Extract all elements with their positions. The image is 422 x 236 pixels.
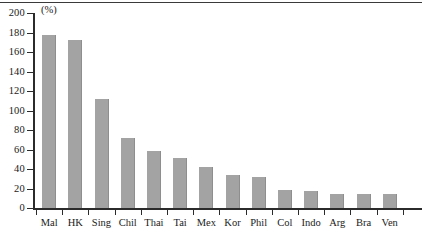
y-axis-tick [27,33,33,34]
figure-top-rule [0,2,422,3]
x-axis-tick [219,210,220,215]
x-axis-tick [298,210,299,215]
y-axis-tick-label-slot: 60 [0,150,25,151]
y-axis-tick-label: 20 [1,184,25,195]
y-axis-tick-label-slot: 180 [0,33,25,34]
y-axis-tick [27,52,33,53]
y-axis-tick [27,150,33,151]
y-axis-tick [27,169,33,170]
y-axis-tick-label: 40 [1,164,25,175]
bar [252,177,266,208]
bar [304,191,318,208]
x-axis-tick [350,210,351,215]
bar [95,99,109,208]
bar [68,40,82,208]
x-axis-tick-label: Indo [301,218,320,229]
x-axis-tick [115,210,116,215]
y-axis-tick-label-slot: 40 [0,169,25,170]
y-axis-tick-label: 200 [1,8,25,19]
x-axis-tick [377,210,378,215]
y-axis-tick-label-slot: 80 [0,130,25,131]
x-axis-tick-label: Ven [382,218,398,229]
y-axis-tick-label: 60 [1,145,25,156]
y-axis-tick [27,91,33,92]
bar [278,190,292,208]
bar [226,175,240,208]
x-axis-tick [246,210,247,215]
y-axis-tick [27,208,33,209]
x-axis-tick-label: Chil [119,218,137,229]
y-axis-tick [27,189,33,190]
x-axis-tick [272,210,273,215]
bar [357,194,371,208]
y-axis-tick-label-slot: 200 [0,13,25,14]
x-axis-tick-label: HK [68,218,83,229]
bar [330,194,344,208]
y-axis-tick-label-slot: 0 [0,208,25,209]
x-axis-tick [193,210,194,215]
y-axis-tick-label-slot: 160 [0,52,25,53]
x-axis-tick [141,210,142,215]
y-axis-tick [27,111,33,112]
y-axis-tick [27,72,33,73]
y-axis-tick-label: 100 [1,106,25,117]
x-axis-tick [324,210,325,215]
y-axis-tick-label: 80 [1,125,25,136]
bar-chart-figure: (%) 200180160140120100806040200 MalHKSin… [0,0,422,236]
y-axis-tick-label-slot: 20 [0,189,25,190]
x-axis-tick-label: Thai [144,218,163,229]
y-axis-tick-label: 0 [1,203,25,214]
y-axis-line [33,13,35,209]
x-axis-tick [88,210,89,215]
x-axis-tick [167,210,168,215]
x-axis-tick [403,210,404,215]
bar [147,151,161,208]
x-axis-tick-label: Mal [41,218,58,229]
bar [42,35,56,208]
bar [383,194,397,208]
x-axis-tick-label: Phil [250,218,267,229]
x-axis-tick-label: Arg [329,218,345,229]
x-axis-line [33,208,422,210]
y-axis-tick-label: 160 [1,47,25,58]
y-axis-tick-label-slot: 120 [0,91,25,92]
y-axis-tick [27,130,33,131]
x-axis-tick [36,210,37,215]
x-axis-tick [62,210,63,215]
y-axis-tick-label: 120 [1,86,25,97]
y-axis-tick-label-slot: 140 [0,72,25,73]
y-axis-tick [27,13,33,14]
y-axis-tick-label-slot: 100 [0,111,25,112]
x-axis-tick-label: Mex [197,218,216,229]
x-axis-tick-label: Tai [173,218,186,229]
bar [199,167,213,208]
x-axis-tick-label: Bra [356,218,371,229]
x-axis-tick-label: Kor [224,218,240,229]
y-axis-tick-label: 140 [1,67,25,78]
x-axis-tick-label: Col [277,218,292,229]
y-axis-tick-label: 180 [1,28,25,39]
y-axis-unit-label: (%) [41,5,57,16]
bar [173,158,187,208]
x-axis-tick-label: Sing [92,218,111,229]
bar [121,138,135,208]
